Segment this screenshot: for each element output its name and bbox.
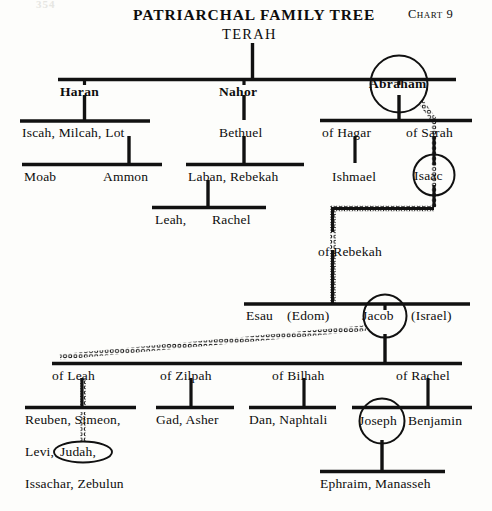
node-of-rachel[interactable]: of Rachel	[396, 369, 450, 383]
node-jacob[interactable]: Jacob	[362, 309, 394, 323]
node-dan-naphtali[interactable]: Dan, Naphtali	[249, 413, 327, 427]
node-rachel[interactable]: Rachel	[212, 213, 251, 227]
node-reuben-simeon[interactable]: Reuben, Simeon,	[25, 413, 121, 427]
node-of-zilpah[interactable]: of Zilpah	[160, 369, 212, 383]
chart-word: Chart	[408, 7, 443, 21]
node-ammon[interactable]: Ammon	[103, 170, 148, 184]
node-nahor[interactable]: Nahor	[219, 85, 257, 99]
node-abraham[interactable]: Abraham	[369, 77, 427, 91]
node-terah[interactable]: TERAH	[222, 27, 277, 42]
node-esau[interactable]: Esau	[246, 309, 273, 323]
node-laban-rebekah[interactable]: Laban, Rebekah	[188, 170, 279, 184]
node-bethuel[interactable]: Bethuel	[219, 126, 262, 140]
node-of-leah[interactable]: of Leah	[52, 369, 95, 383]
node-judah-highlighted[interactable]: Judah,	[60, 445, 96, 459]
node-of-hagar[interactable]: of Hagar	[322, 126, 371, 140]
chart-page: 354	[0, 0, 492, 511]
node-of-sarah[interactable]: of Sarah	[406, 126, 453, 140]
covenant-beaded-line	[60, 102, 434, 442]
node-gad-asher[interactable]: Gad, Asher	[156, 413, 219, 427]
node-benjamin[interactable]: Benjamin	[408, 414, 462, 428]
node-of-rebekah[interactable]: of Rebekah	[318, 245, 382, 259]
chart-number-label: Chart 9	[408, 8, 453, 21]
node-levi[interactable]: Levi,	[25, 445, 54, 459]
page-title: PATRIARCHAL FAMILY TREE	[133, 7, 375, 23]
node-iscah-milcah-lot[interactable]: Iscah, Milcah, Lot	[22, 126, 125, 140]
node-esau-epithet: (Edom)	[287, 309, 329, 323]
node-issachar-zebulun[interactable]: Issachar, Zebulun	[25, 477, 124, 491]
node-ishmael[interactable]: Ishmael	[332, 170, 376, 184]
chart-digit: 9	[446, 7, 453, 21]
node-joseph[interactable]: Joseph	[359, 414, 397, 428]
node-jacob-epithet: (Israel)	[411, 309, 452, 323]
node-leah[interactable]: Leah,	[155, 213, 186, 227]
node-of-bilhah[interactable]: of Bilhah	[272, 369, 324, 383]
node-isaac[interactable]: Isaac	[414, 169, 443, 183]
node-haran[interactable]: Haran	[60, 85, 99, 99]
node-moab[interactable]: Moab	[24, 170, 56, 184]
node-ephraim-manasseh[interactable]: Ephraim, Manasseh	[320, 477, 431, 491]
